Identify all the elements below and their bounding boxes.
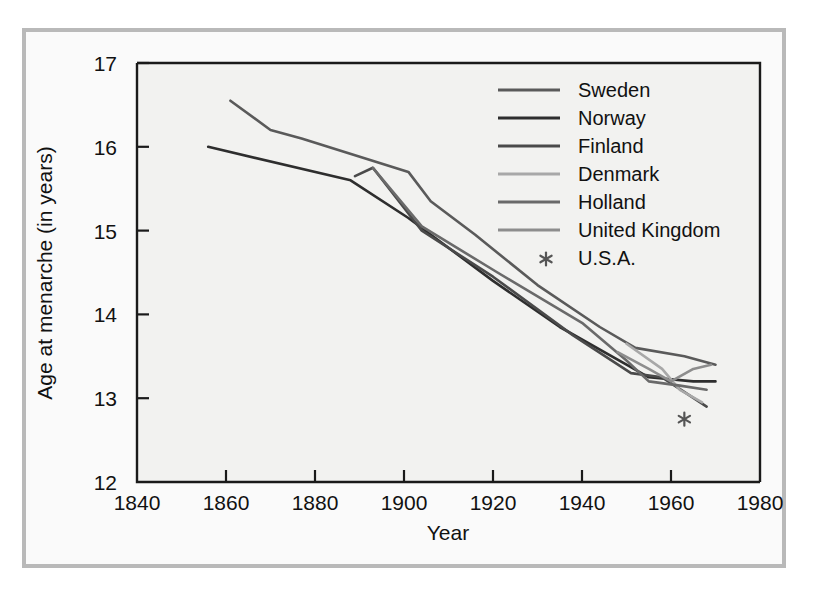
legend-label: U.S.A. <box>578 247 636 269</box>
legend-label: Norway <box>578 107 646 129</box>
legend-label: United Kingdom <box>578 219 720 241</box>
x-tick-label: 1980 <box>737 491 784 514</box>
y-tick-label: 13 <box>94 387 117 410</box>
y-axis-title: Age at menarche (in years) <box>33 146 56 399</box>
y-tick-label: 14 <box>94 303 118 326</box>
legend-label: Sweden <box>578 79 650 101</box>
chart-container: 121314151617 184018601880190019201940196… <box>0 0 813 601</box>
y-tick-label: 16 <box>94 136 117 159</box>
x-tick-label: 1940 <box>559 491 606 514</box>
x-tick-label: 1880 <box>292 491 339 514</box>
x-tick-label: 1920 <box>470 491 517 514</box>
x-tick-label: 1840 <box>114 491 161 514</box>
x-axis-title: Year <box>427 521 469 544</box>
x-tick-label: 1860 <box>203 491 250 514</box>
x-tick-label: 1900 <box>381 491 428 514</box>
plot-background <box>137 63 760 482</box>
legend-label: Finland <box>578 135 644 157</box>
menarche-age-line-chart: 121314151617 184018601880190019201940196… <box>0 0 813 601</box>
legend-label: Holland <box>578 191 646 213</box>
x-tick-label: 1960 <box>648 491 695 514</box>
legend-label: Denmark <box>578 163 660 185</box>
y-tick-label: 17 <box>94 52 117 75</box>
y-tick-labels: 121314151617 <box>94 52 118 494</box>
y-tick-label: 15 <box>94 220 117 243</box>
x-tick-labels: 18401860188019001920194019601980 <box>114 491 784 514</box>
